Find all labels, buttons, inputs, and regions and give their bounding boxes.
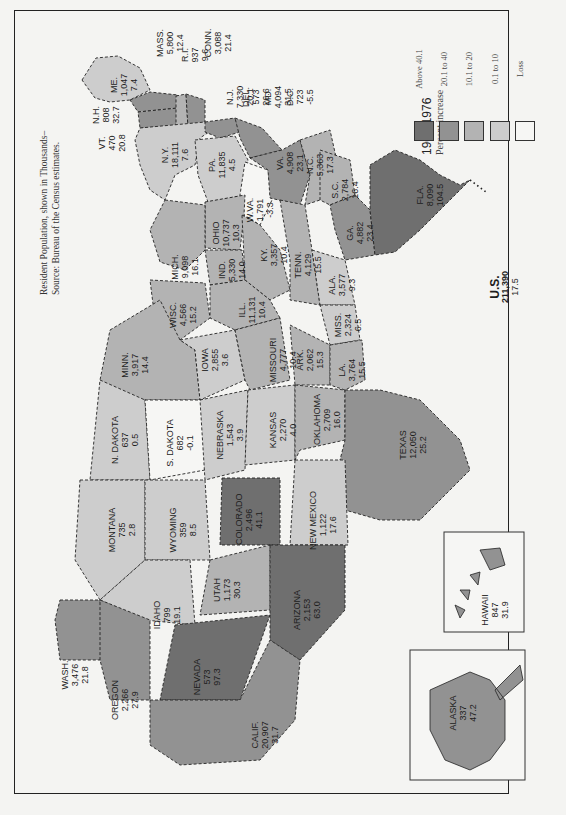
label-vt: VT.47020.8: [97, 123, 127, 163]
legend-label-0-10: 0.1 to 10: [490, 44, 500, 94]
label-ariz: ARIZONA2,15363.0: [292, 585, 322, 635]
label-sd: S. DAKOTA682-0.1: [165, 418, 195, 468]
label-va: VA.4,90823.1: [275, 143, 305, 183]
label-la: LA.3,76415.5: [337, 350, 367, 390]
label-ga: GA.4,88223.4: [345, 213, 375, 253]
us-total-population: 211,390: [500, 262, 510, 312]
florida-keys: [470, 180, 486, 192]
legend-swatch-above-40: [414, 121, 434, 141]
label-neb: NEBRASKA1,5433.9: [215, 410, 245, 460]
label-fla: FLA.8,090104.5: [415, 175, 445, 215]
label-ind: IND.5,33014.0: [217, 250, 247, 290]
us-total: U.S. 211,390 17.5: [490, 262, 520, 312]
label-nd: N. DAKOTA6370.5: [110, 415, 140, 465]
legend-label-20-40: 20.1 to 40: [439, 44, 449, 94]
title-line-2: Source: Bureau of the Census estimates.: [50, 131, 62, 295]
label-wva: W.VA.1,791-3.3: [245, 190, 275, 230]
label-conn: CONN.3,08821.4: [203, 21, 233, 65]
label-okla: OKLAHOMA2,70916.0: [312, 395, 342, 445]
label-ark: ARK.2,06215.3: [295, 340, 325, 380]
label-ny: N.Y.18,1117.6: [160, 135, 190, 175]
legend-label-10-20: 10.1 to 20: [464, 44, 474, 94]
map-title: Resident Population, shown in Thousands–…: [38, 131, 62, 295]
label-wash: WASH.3,47621.8: [60, 650, 90, 700]
label-ala: ALA.3,5779.3: [327, 265, 357, 305]
label-iowa: IOWA2,8553.6: [200, 340, 230, 380]
label-utah: UTAH1,17330.3: [212, 565, 242, 615]
state-nj: [205, 118, 240, 138]
legend-swatch-0-10: [490, 121, 510, 141]
label-ky: KY.3,35710.4: [259, 235, 289, 275]
label-mich: MICH.9,09816.1: [170, 247, 200, 287]
us-total-change: 17.5: [510, 262, 520, 312]
legend-swatch-20-40: [439, 121, 459, 141]
label-ohio: OHIO10,73710.3: [211, 213, 241, 253]
label-tex: TEXAS12,05025.2: [398, 420, 428, 470]
title-line-1: Resident Population, shown in Thousands–: [38, 131, 50, 295]
label-wisc: WISC.4,56615.2: [168, 295, 198, 335]
label-mo: MISSOURI4,77710.4: [268, 335, 298, 385]
label-idaho: IDAHO79919.1: [152, 590, 182, 640]
label-kan: KANSAS2,2704.0: [268, 405, 298, 455]
label-miss: MISS.2,3246.5: [333, 305, 363, 345]
state-mass: [176, 94, 188, 128]
legend-swatch-10-20: [464, 121, 484, 141]
label-calif: CALIF.20,90731.7: [250, 710, 280, 760]
us-total-name: U.S.: [490, 262, 500, 312]
label-wyo: WYOMING3598.5: [168, 505, 198, 555]
label-minn: MINN.3,91714.4: [120, 345, 150, 385]
label-pa: PA.11,8354.5: [207, 145, 237, 185]
label-dc: D.C.723-5.5: [285, 77, 315, 117]
label-mont: MONTANA7352.8: [107, 505, 137, 555]
legend-swatch-loss: [515, 121, 535, 141]
label-tenn: TENN.4,12915.5: [293, 245, 323, 285]
label-nev: NEVADA57397.3: [192, 652, 222, 702]
label-hawaii: HAWAII84731.9: [480, 585, 510, 635]
label-colo: COLORADO2,49641.1: [234, 495, 264, 545]
legend-label-loss: Loss: [515, 44, 525, 94]
label-alaska: ALASKA33747.2: [448, 688, 478, 738]
label-sc: S.C.2,78416.4: [330, 170, 360, 210]
label-nm: NEW MEXICO1,12217.6: [308, 500, 338, 550]
label-ill: ILL.11,13110.4: [237, 290, 267, 330]
legend-label-above-40: Above 40.1: [414, 44, 424, 94]
label-ore: OREGON2,26627.9: [110, 675, 140, 725]
